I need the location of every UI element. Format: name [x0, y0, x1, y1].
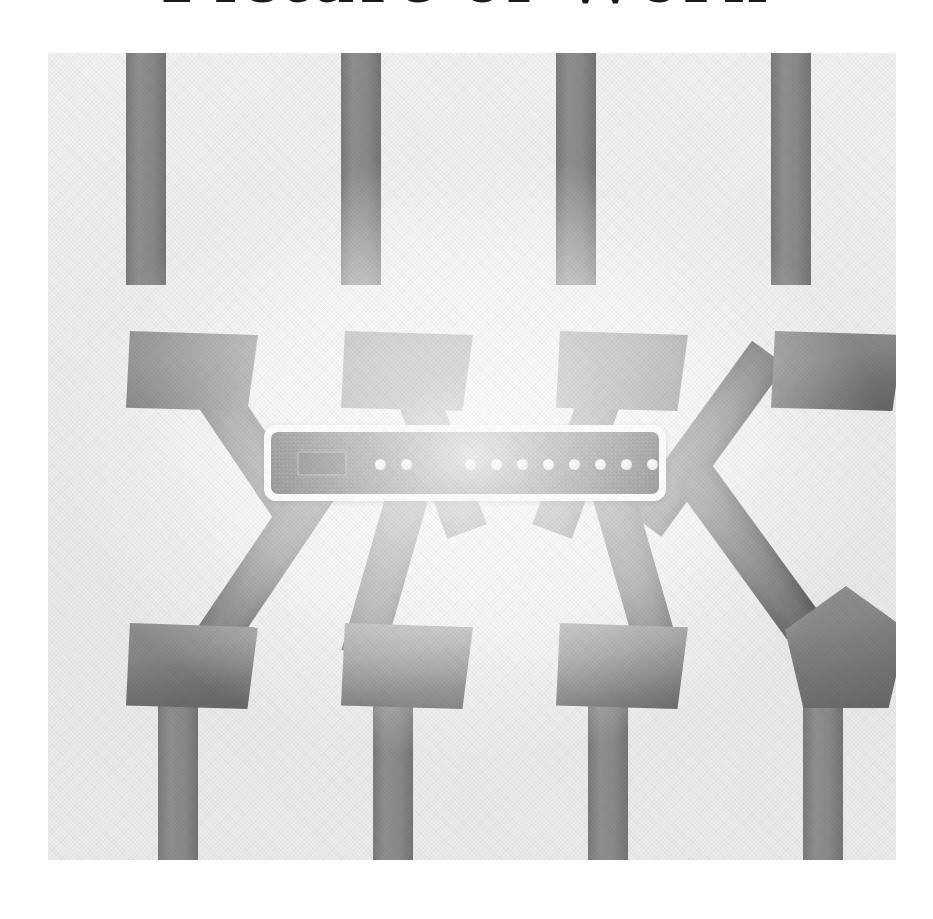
network-switch[interactable] [264, 425, 666, 501]
page-root: Picture of Work [0, 0, 933, 919]
switch-console-port[interactable] [297, 451, 347, 476]
figure-canvas [48, 53, 896, 860]
switch-port-led-2 [491, 459, 502, 470]
page-title-bar: Picture of Work [0, 0, 933, 18]
switch-port-led-3 [517, 459, 528, 470]
switch-body [271, 432, 659, 494]
switch-port-led-6 [595, 459, 606, 470]
switch-port-led-4 [543, 459, 554, 470]
switch-port-led-5 [569, 459, 580, 470]
switch-status-led-1 [375, 459, 386, 470]
switch-status-led-2 [401, 459, 412, 470]
switch-port-led-1 [465, 459, 476, 470]
switch-layer [48, 53, 896, 860]
page-title: Picture of Work [0, 0, 933, 18]
switch-port-led-7 [621, 459, 632, 470]
switch-port-led-8 [647, 459, 658, 470]
